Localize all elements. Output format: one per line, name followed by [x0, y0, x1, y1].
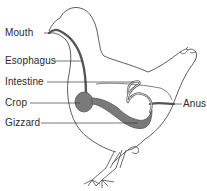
label-gizzard: Gizzard — [5, 117, 40, 129]
label-esophagus: Esophagus — [5, 55, 56, 67]
stomach-gizzard — [92, 98, 152, 129]
label-intestine: Intestine — [5, 76, 44, 88]
label-mouth: Mouth — [5, 27, 33, 39]
label-crop: Crop — [5, 97, 27, 109]
wing-outline — [96, 83, 172, 100]
chicken-body-outline — [49, 7, 197, 164]
crop-organ — [75, 92, 93, 112]
label-anus: Anus — [183, 98, 206, 110]
chicken-legs — [84, 147, 139, 188]
